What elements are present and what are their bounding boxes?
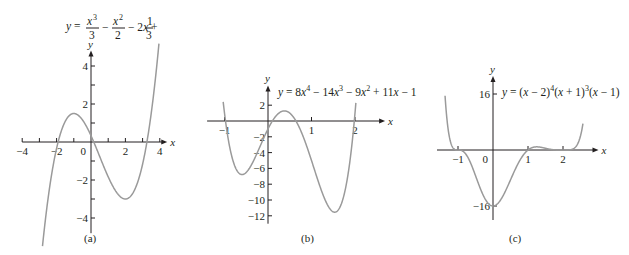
figure-three-polynomial-graphs: y = x 3 3 − x 2 2 − 2x + 1 3 xy−4−22442−… [0,0,629,255]
y-tick-label: 2 [260,99,266,111]
equation-b: y = 8x4 − 14x3 − 9x2 + 11x − 1 [277,84,417,99]
graph-panel-b: y = 8x4 − 14x3 − 9x2 + 11x − 1 xy−1122−2… [207,72,417,245]
y-axis-label: y [489,63,495,75]
svg-text:3: 3 [146,29,152,41]
origin-label: 0 [483,153,489,165]
caption-b: (b) [301,232,314,245]
y-tick-label: −10 [248,194,266,206]
graph-panel-a: y = x 3 3 − x 2 2 − 2x + 1 3 xy−4−22442−… [16,13,175,246]
x-axis-label: x [601,144,607,156]
x-axis-label: x [387,115,393,127]
y-tick-label: 16 [479,88,491,100]
x-tick-label: 2 [123,145,129,157]
y-tick-label: −12 [248,210,265,222]
x-tick-label: 4 [157,145,163,157]
x-axis-arrow-icon [593,148,599,153]
y-axis-label: y [87,38,93,50]
x-tick-label: −1 [452,153,464,165]
equation-a: y = [65,20,80,33]
y-tick-label: 2 [83,98,89,110]
y-tick-label: −4 [76,212,88,224]
caption-c: (c) [509,232,522,245]
x-tick-label: 2 [560,153,566,165]
x-tick-label: −1 [219,124,231,136]
curve-c [445,96,583,206]
y-tick-label: −2 [76,174,88,186]
y-tick-label: −8 [253,178,265,190]
x-tick-label: 1 [309,124,315,136]
y-axis-label: y [264,72,270,84]
caption-a: (a) [84,232,97,245]
x-axis-arrow-icon [379,119,385,124]
eq-a-frac1-num: x [86,15,93,27]
x-axis-arrow-icon [161,140,167,145]
x-tick-label: 1 [525,153,531,165]
axes-a: xy−4−22442−2−40 [16,38,175,234]
graph-panel-c: y = (x − 2)4(x + 1)3(x − 1) xy−11216−160… [437,63,620,245]
y-axis-arrow-icon [266,85,271,91]
y-axis-arrow-icon [89,51,94,57]
curve-b [223,102,356,212]
svg-text:3: 3 [93,13,97,22]
equation-c: y = (x − 2)4(x + 1)3(x − 1) [501,84,620,99]
x-axis-label: x [169,136,175,148]
svg-text:x: x [112,15,119,27]
svg-text:−: − [102,21,109,33]
y-tick-label: 4 [83,60,89,72]
x-tick-label: −4 [16,145,28,157]
y-tick-label: −6 [253,162,265,174]
origin-label: 0 [81,145,87,157]
svg-text:2: 2 [119,13,123,22]
y-axis-arrow-icon [491,76,496,82]
svg-text:2: 2 [115,29,121,41]
svg-text:− 2x +: − 2x + [128,21,158,33]
svg-text:1: 1 [147,15,153,27]
y-tick-label: −2 [253,131,265,143]
